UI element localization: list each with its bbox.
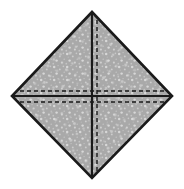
- diamond-fold-diagram: Folded square diagram A gray shaded squa…: [0, 0, 184, 189]
- figure-root: Folded square diagram A gray shaded squa…: [0, 0, 184, 189]
